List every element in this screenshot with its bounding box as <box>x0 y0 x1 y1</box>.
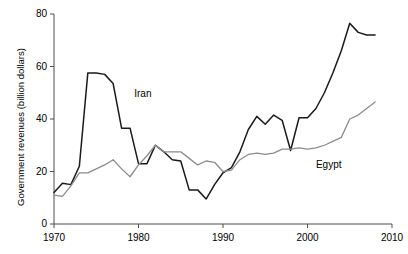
y-tick-label: 80 <box>21 9 47 19</box>
x-tick-label: 2000 <box>288 233 328 243</box>
x-tick-label: 1970 <box>34 233 74 243</box>
x-tick-label: 1980 <box>119 233 159 243</box>
series-line-iran <box>54 23 375 199</box>
y-tick-label: 20 <box>21 167 47 177</box>
data-series-group <box>54 23 375 199</box>
series-line-egypt <box>54 102 375 197</box>
x-tick-label: 2010 <box>372 233 408 243</box>
y-tick-label: 60 <box>21 62 47 72</box>
series-label-iran: Iran <box>134 89 151 99</box>
series-label-egypt: Egypt <box>316 160 342 170</box>
x-axis-ticks <box>54 224 392 228</box>
axes <box>50 14 392 228</box>
x-tick-label: 1990 <box>203 233 243 243</box>
y-tick-label: 40 <box>21 114 47 124</box>
y-tick-label: 0 <box>21 219 47 229</box>
